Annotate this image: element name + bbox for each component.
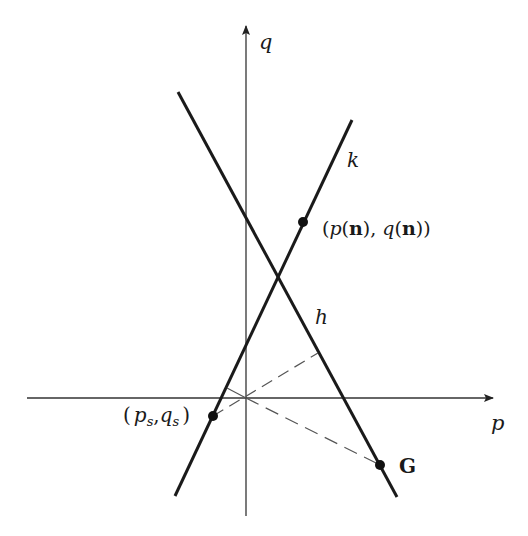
label-ps-qs: (ps,qs) — [123, 403, 190, 429]
label-k: k — [347, 148, 359, 172]
label-h: h — [315, 305, 328, 329]
label-q: q — [259, 30, 272, 54]
dashed-k-origin — [227, 388, 246, 398]
point-p-n-q-n — [298, 217, 308, 227]
label-p: p — [491, 411, 504, 435]
label-G: G — [399, 454, 416, 478]
line-h — [178, 92, 397, 497]
diagram-canvas: q p k h G (p(n), q(n)) (ps,qs) — [0, 0, 528, 536]
point-ps-qs — [208, 411, 218, 421]
label-p-n-q-n: (p(n), q(n)) — [322, 217, 431, 239]
point-G — [375, 460, 385, 470]
